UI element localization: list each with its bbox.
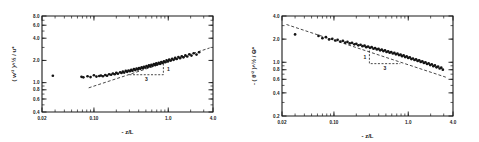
data-point	[334, 39, 337, 42]
slope-run-label: 3	[383, 65, 386, 71]
data-point	[346, 41, 349, 44]
x-tick-label: 0.02	[38, 116, 47, 121]
y-tick-label: 4.0	[273, 14, 280, 19]
figure-container: 0.40.60.81.02.04.06.08.00.020.101.04.013…	[0, 0, 479, 142]
y-axis-label: ( w'² )^½ / u*	[11, 46, 17, 82]
data-point	[102, 75, 105, 78]
y-tick-label: 0.8	[273, 67, 280, 72]
data-point	[198, 51, 201, 54]
data-point	[325, 36, 328, 39]
chart-panel-right: 0.20.40.60.81.02.04.00.020.101.04.013- z…	[240, 0, 479, 142]
data-point	[441, 68, 444, 71]
data-point	[182, 56, 185, 59]
y-tick-label: 0.4	[273, 91, 280, 96]
slope-rise-label: 1	[167, 66, 170, 72]
plot-frame	[282, 16, 453, 116]
y-tick-label: 1.0	[33, 80, 40, 85]
y-tick-label: 2.0	[33, 58, 40, 63]
data-point	[336, 38, 339, 41]
reference-slope-line	[287, 25, 446, 78]
data-point	[86, 75, 89, 78]
data-point	[339, 40, 342, 43]
x-tick-label: 0.10	[89, 116, 98, 121]
data-point	[95, 75, 98, 78]
y-tick-label: 8.0	[33, 14, 40, 19]
x-axis-label: - z/L	[122, 129, 134, 135]
x-tick-label: 0.10	[329, 120, 338, 125]
data-point	[52, 74, 55, 77]
x-tick-label: 0.02	[278, 120, 287, 125]
data-point	[195, 53, 198, 56]
chart-panel-left: 0.40.60.81.02.04.06.08.00.020.101.04.013…	[0, 0, 239, 142]
y-tick-label: 0.6	[273, 77, 280, 82]
plot-frame	[42, 16, 213, 112]
data-point	[321, 37, 324, 40]
y-tick-label: 2.0	[273, 37, 280, 42]
data-point	[342, 40, 345, 43]
y-axis-label: - ( θ'² )^½ / Θ*	[251, 46, 257, 85]
data-point	[328, 38, 331, 41]
scatter-plot-left: 0.40.60.81.02.04.06.08.00.020.101.04.013…	[0, 0, 239, 142]
x-tick-label: 1.0	[165, 116, 172, 121]
data-point	[93, 74, 96, 77]
data-point	[190, 54, 193, 57]
y-tick-label: 0.4	[33, 110, 40, 115]
y-tick-label: 1.0	[273, 60, 280, 65]
y-tick-label: 0.6	[33, 97, 40, 102]
data-point	[192, 52, 195, 55]
data-point	[331, 37, 334, 40]
reference-slope-line	[89, 48, 210, 88]
y-tick-label: 4.0	[33, 36, 40, 41]
x-axis-label: - z/L	[362, 133, 374, 139]
data-point	[117, 72, 120, 75]
y-tick-label: 6.0	[33, 23, 40, 28]
data-point	[348, 42, 351, 45]
scatter-plot-right: 0.20.40.60.81.02.04.00.020.101.04.013- z…	[240, 0, 479, 142]
data-point	[89, 76, 92, 79]
y-tick-label: 0.2	[273, 114, 280, 119]
data-point	[294, 33, 297, 36]
data-point	[351, 41, 354, 44]
data-point	[317, 35, 320, 38]
x-tick-label: 4.0	[450, 120, 457, 125]
x-tick-label: 1.0	[405, 120, 412, 125]
y-tick-label: 0.8	[33, 87, 40, 92]
x-tick-label: 4.0	[210, 116, 217, 121]
data-point	[186, 55, 189, 58]
slope-rise-label: 1	[364, 54, 367, 60]
data-point	[82, 76, 85, 79]
slope-run-label: 3	[145, 76, 148, 82]
